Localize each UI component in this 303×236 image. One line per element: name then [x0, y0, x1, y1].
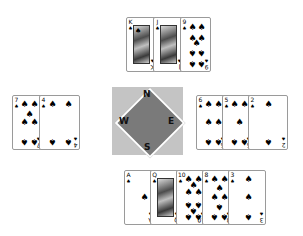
card-index: 2♠: [250, 97, 255, 109]
compass-north-label: N: [143, 90, 151, 99]
north-hand: K♠ ♠ K♠ J♠ J♠ 9♠ ♠ ♠ ♠ ♠ ♠ ♠ ♠ ♠ ♠ 9♠: [126, 17, 214, 73]
compass-south-label: S: [144, 143, 150, 152]
spade-icon: ♠: [204, 100, 213, 109]
spade-icon: ♠: [210, 193, 219, 202]
card-north-2[interactable]: 9♠ ♠ ♠ ♠ ♠ ♠ ♠ ♠ ♠ ♠ 9♠: [180, 17, 211, 72]
spade-icon: ♠: [48, 137, 57, 146]
spade-icon: ♠: [30, 118, 39, 127]
card-index: 10♠: [178, 172, 183, 184]
spade-icon: ♠: [30, 100, 39, 109]
spade-icon: ♠: [184, 212, 193, 221]
spade-icon: ♠: [215, 202, 224, 211]
spade-icon: ♠: [244, 212, 253, 221]
spade-icon: ♠: [20, 137, 29, 146]
card-index: 2♠: [281, 136, 286, 148]
compass-east-label: E: [168, 117, 174, 126]
spade-icon: ♠: [184, 188, 193, 197]
spade-icon: ♠: [48, 100, 57, 109]
spade-icon: ♠: [197, 48, 206, 57]
spade-icon: ♠: [192, 39, 201, 48]
south-hand: A♠ ♠ A♠ Q♠ Q♠ 10♠ ♠ ♠ ♠ ♠ ♠ ♠ ♠ ♠ ♠ ♠ 10…: [124, 170, 266, 226]
east-hand: 6♠ ♠ ♠ ♠ ♠ ♠ ♠ 6♠ 5♠ ♠ ♠ ♠ ♠ ♠ 5♠ 2♠ ♠ ♠…: [196, 95, 288, 151]
card-index: 6♠: [198, 97, 203, 109]
spade-icon: ♠: [140, 193, 149, 202]
card-index: 9♠: [204, 58, 209, 70]
spade-icon: ♠: [197, 23, 206, 32]
card-index: A♠: [126, 172, 131, 184]
spade-icon: ♠: [64, 100, 73, 109]
spade-icon: ♠: [235, 118, 244, 127]
spade-icon: ♠: [204, 137, 213, 146]
king-face-image: ♠: [133, 25, 150, 64]
card-index: 8♠: [204, 172, 209, 184]
west-hand: 7♠ ♠ ♠ ♠ ♠ ♠ ♠ ♠ 7♠ 4♠ ♠ ♠ ♠ ♠ 4♠: [12, 95, 80, 151]
spade-icon: ♠: [264, 137, 273, 146]
spade-icon: ♠: [210, 212, 219, 221]
spade-icon: ♠: [188, 59, 197, 68]
spade-icon: ♠: [188, 48, 197, 57]
card-south-4[interactable]: 3♠ ♠ ♠ ♠ 3♠: [228, 170, 266, 225]
spade-icon: ♠: [244, 175, 253, 184]
spade-icon: ♠: [244, 193, 253, 202]
spade-icon: ♠: [20, 100, 29, 109]
card-index: 3♠: [230, 172, 235, 184]
card-index: 9♠: [182, 19, 187, 31]
spade-icon: ♠: [188, 23, 197, 32]
spade-icon: ♠: [20, 118, 29, 127]
card-index: 7♠: [14, 97, 19, 109]
queen-face-image: [157, 178, 174, 217]
compass: N W E S: [112, 87, 183, 155]
jack-face-image: [160, 25, 177, 64]
spade-icon: ♠: [230, 137, 239, 146]
spade-icon: ♠: [64, 137, 73, 146]
spade-icon: ♠: [264, 100, 273, 109]
card-west-1[interactable]: 4♠ ♠ ♠ ♠ ♠ 4♠: [39, 95, 80, 150]
card-east-2[interactable]: 2♠ ♠ ♠ 2♠: [248, 95, 288, 150]
spade-icon: ♠: [230, 100, 239, 109]
card-index: 4♠: [41, 97, 46, 109]
card-index: 3♠: [259, 211, 264, 223]
compass-west-label: W: [119, 117, 129, 126]
spade-icon: ♠: [204, 118, 213, 127]
card-index: 5♠: [224, 97, 229, 109]
card-index: 4♠: [73, 136, 78, 148]
